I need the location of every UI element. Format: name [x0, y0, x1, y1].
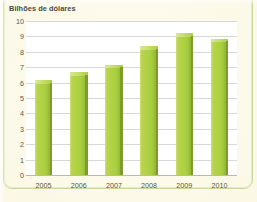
y-tick-label-5: 5	[4, 94, 24, 103]
bar-side-face-2005	[50, 83, 52, 175]
y-tick-label-10: 10	[4, 17, 24, 26]
y-tick-label-2: 2	[4, 140, 24, 149]
x-tick-label-2006: 2006	[71, 181, 87, 190]
x-tick-label-2007: 2007	[106, 181, 122, 190]
gridline-0	[26, 175, 237, 176]
bar-side-face-2010	[226, 41, 228, 175]
x-tick-label-2010: 2010	[211, 181, 227, 190]
bar-side-face-2006	[85, 75, 87, 175]
bar-side-face-2007	[120, 67, 122, 175]
bar-body-2010	[211, 41, 229, 175]
bar-body-2007	[105, 67, 123, 175]
x-tick-label-2009: 2009	[176, 181, 192, 190]
y-tick-label-4: 4	[4, 109, 24, 118]
bar-2009	[176, 21, 194, 175]
bar-2006	[70, 21, 88, 175]
bar-body-2005	[35, 83, 53, 175]
bar-2005	[35, 21, 53, 175]
y-tick-label-9: 9	[4, 32, 24, 41]
chart-title: Bilhões de dólares	[9, 4, 76, 13]
y-tick-label-8: 8	[4, 47, 24, 56]
y-tick-label-6: 6	[4, 78, 24, 87]
bar-series	[26, 21, 237, 175]
bar-body-2006	[70, 75, 88, 175]
bar-2007	[105, 21, 123, 175]
y-tick-label-3: 3	[4, 124, 24, 133]
y-tick-label-7: 7	[4, 63, 24, 72]
bar-body-2009	[176, 36, 194, 175]
bar-2010	[211, 21, 229, 175]
x-tick-label-2005: 2005	[36, 181, 52, 190]
bar-2008	[140, 21, 158, 175]
bar-body-2008	[140, 49, 158, 175]
chart-figure: Bilhões de dólares 012345678910 20052006…	[0, 0, 257, 202]
bar-side-face-2008	[156, 49, 158, 175]
x-tick-label-2008: 2008	[141, 181, 157, 190]
y-tick-label-1: 1	[4, 155, 24, 164]
y-tick-label-0: 0	[4, 171, 24, 180]
bar-side-face-2009	[191, 36, 193, 175]
